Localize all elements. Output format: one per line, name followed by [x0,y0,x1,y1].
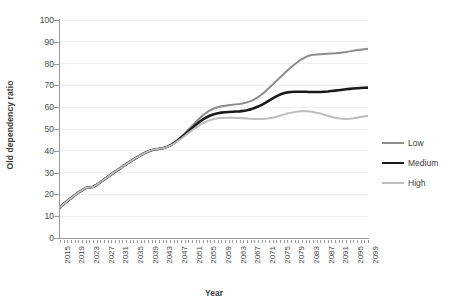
legend-swatch-medium [382,162,404,164]
x-tick-mark [240,240,241,243]
x-tick-mark [287,240,288,243]
y-axis-title: Old dependency ratio [0,0,20,250]
y-tick-label: 10 [28,212,54,221]
x-tick-mark [251,240,252,243]
x-tick-mark [295,240,296,243]
x-tick-mark [64,240,65,243]
legend-swatch-high [382,182,404,184]
y-tick-mark [54,64,59,65]
x-tick-mark [243,240,244,243]
y-tick-mark [54,20,59,21]
x-tick-mark [247,240,248,243]
x-tick-label: 2035 [137,246,145,264]
x-tick-mark [170,240,171,243]
x-tick-mark [265,240,266,243]
x-tick-label: 2063 [240,246,248,264]
x-tick-label: 2083 [313,246,321,264]
x-tick-mark [188,240,189,243]
y-tick-mark [54,151,59,152]
x-tick-mark [364,240,365,243]
x-tick-mark [185,240,186,243]
legend-label-medium: Medium [408,158,438,168]
x-tick-label: 2015 [64,246,72,264]
series-line-medium [60,88,368,208]
x-tick-mark [339,240,340,243]
x-tick-mark [166,240,167,243]
chart-legend: Low Medium High [382,133,466,193]
y-tick-mark [54,42,59,43]
x-tick-mark [258,240,259,243]
x-tick-mark [280,240,281,243]
series-lines [60,20,368,238]
x-tick-mark [214,240,215,243]
x-tick-mark [284,240,285,243]
x-tick-mark [177,240,178,243]
x-tick-mark [133,240,134,243]
y-tick-label: 60 [28,103,54,112]
y-tick-label: 50 [28,125,54,134]
x-tick-label: 2075 [284,246,292,264]
x-tick-label: 2051 [196,246,204,264]
legend-item-high: High [382,173,466,193]
y-tick-mark [54,107,59,108]
y-tick-label: 20 [28,190,54,199]
y-tick-mark [54,173,59,174]
series-line-high [60,111,368,207]
x-tick-mark [126,240,127,243]
x-tick-mark [298,240,299,243]
x-tick-label: 2027 [108,246,116,264]
y-tick-mark [54,85,59,86]
x-tick-mark [210,240,211,243]
x-tick-mark [159,240,160,243]
x-tick-mark [328,240,329,243]
y-tick-label: 40 [28,147,54,156]
x-tick-mark [335,240,336,243]
x-tick-mark [225,240,226,243]
x-tick-mark [104,240,105,243]
y-tick-mark [54,238,59,239]
x-tick-mark [324,240,325,243]
legend-label-low: Low [408,138,424,148]
x-tick-label: 2055 [210,246,218,264]
y-tick-label: 0 [28,234,54,243]
x-tick-label: 2099 [372,246,380,264]
y-tick-mark [54,129,59,130]
x-tick-mark [163,240,164,243]
x-tick-mark [302,240,303,243]
x-tick-mark [108,240,109,243]
x-tick-label: 2047 [181,246,189,264]
x-tick-mark [119,240,120,243]
x-tick-label: 2095 [357,246,365,264]
x-tick-mark [203,240,204,243]
x-tick-mark [196,240,197,243]
x-tick-mark [306,240,307,243]
series-line-low [60,49,368,208]
x-tick-mark [181,240,182,243]
x-tick-label: 2043 [166,246,174,264]
x-tick-mark [317,240,318,243]
x-tick-mark [350,240,351,243]
x-tick-mark [111,240,112,243]
x-tick-mark [353,240,354,243]
x-tick-mark [207,240,208,243]
x-tick-mark [82,240,83,243]
old-dependency-ratio-chart: Old dependency ratio 0102030405060708090… [0,0,470,307]
y-tick-mark [54,194,59,195]
legend-label-high: High [408,178,425,188]
x-tick-label: 2019 [78,246,86,264]
x-tick-mark [115,240,116,243]
x-tick-mark [218,240,219,243]
y-tick-label: 80 [28,60,54,69]
x-tick-label: 2039 [152,246,160,264]
x-tick-mark [276,240,277,243]
y-tick-mark [54,216,59,217]
x-tick-mark [320,240,321,243]
x-tick-mark [229,240,230,243]
x-tick-mark [331,240,332,243]
legend-item-low: Low [382,133,466,153]
y-tick-label: 90 [28,38,54,47]
x-tick-label: 2071 [269,246,277,264]
legend-swatch-low [382,142,404,144]
x-tick-mark [342,240,343,243]
x-tick-mark [174,240,175,243]
